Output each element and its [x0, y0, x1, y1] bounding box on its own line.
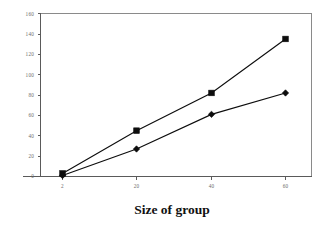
x-tick-label-20: 20 — [134, 183, 140, 189]
square-marker-20 — [134, 128, 140, 134]
plot-frame — [23, 14, 312, 177]
series-squares-group — [60, 36, 289, 176]
square-marker-60 — [283, 36, 289, 42]
y-tick-label-100: 100 — [26, 72, 35, 78]
y-tick-label-20: 20 — [28, 153, 34, 159]
line-chart: 0 20 40 60 80 100 120 140 160 2 20 40 60 — [0, 0, 334, 225]
y-tick-label-120: 120 — [26, 51, 35, 57]
series-diamonds-line — [63, 93, 286, 176]
x-tick-label-40: 40 — [209, 183, 215, 189]
y-axis-tick-labels: 0 20 40 60 80 100 120 140 160 — [26, 11, 35, 180]
y-tick-label-40: 40 — [28, 133, 34, 139]
x-tick-label-2: 2 — [61, 183, 64, 189]
y-tick-label-80: 80 — [28, 92, 34, 98]
y-tick-label-0: 0 — [31, 173, 34, 179]
diamond-marker-20 — [133, 146, 139, 152]
x-axis-tick-labels: 2 20 40 60 — [61, 183, 288, 189]
series-squares-line — [63, 39, 286, 173]
square-marker-40 — [209, 90, 215, 96]
diamond-marker-40 — [208, 111, 214, 117]
series-diamonds-group — [59, 90, 288, 179]
chart-container: 0 20 40 60 80 100 120 140 160 2 20 40 60 — [0, 0, 334, 225]
x-axis-title: Size of group — [134, 202, 210, 217]
y-tick-label-60: 60 — [28, 112, 34, 118]
diamond-marker-60 — [282, 90, 288, 96]
y-tick-label-140: 140 — [26, 31, 35, 37]
x-tick-label-60: 60 — [283, 183, 289, 189]
x-axis-ticks — [63, 177, 286, 181]
series-diamonds-markers — [59, 90, 288, 179]
y-tick-label-160: 160 — [26, 11, 35, 17]
